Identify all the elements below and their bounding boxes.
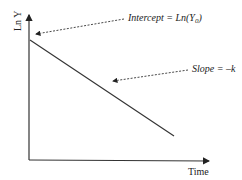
- x-axis: [29, 160, 209, 161]
- diagram: Ln Y Time Intercept = Ln(Y0) Slope = –k: [0, 0, 242, 180]
- slope-arrow: [113, 70, 188, 81]
- regression-line: [30, 40, 174, 136]
- x-axis-label: Time: [188, 166, 209, 177]
- intercept-annotation: Intercept = Ln(Y0): [127, 12, 202, 25]
- y-axis-label: Ln Y: [12, 11, 23, 31]
- intercept-arrow: [36, 19, 124, 34]
- slope-annotation: Slope = –k: [192, 63, 236, 74]
